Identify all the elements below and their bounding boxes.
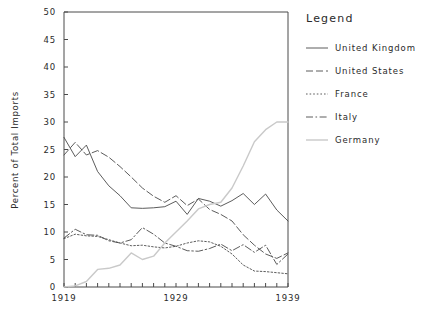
series-line-france [64,234,288,274]
y-axis-title: Percent of Total Imports [10,91,20,209]
series-line-united-states [64,142,288,258]
y-axis-tick-marks [64,12,68,287]
y-tick-label: 30 [43,117,56,127]
y-tick-label: 15 [43,200,56,210]
legend: United KingdomUnited StatesFranceItalyGe… [306,43,416,145]
data-series-group [64,122,288,287]
y-tick-label: 5 [50,255,56,265]
y-tick-label: 40 [43,62,56,72]
x-tick-label: 1939 [275,293,300,303]
series-line-italy [64,228,288,265]
y-tick-label: 25 [43,145,56,155]
series-line-united-kingdom [64,137,288,221]
chart-container: 05101520253035404550 191919291939 Percen… [0,0,423,318]
y-tick-label: 45 [43,35,56,45]
y-tick-label: 35 [43,90,56,100]
legend-label-france: France [335,89,369,99]
legend-title: Legend [306,12,354,25]
x-axis-tick-marks [64,283,288,287]
x-axis-tick-labels: 191919291939 [51,293,300,303]
x-tick-label: 1919 [51,293,76,303]
y-tick-label: 0 [50,282,56,292]
y-axis-tick-labels: 05101520253035404550 [43,7,56,292]
y-tick-label: 50 [43,7,56,17]
legend-label-germany: Germany [335,135,380,145]
y-tick-label: 10 [43,227,56,237]
y-tick-label: 20 [43,172,56,182]
legend-label-united-kingdom: United Kingdom [335,43,416,53]
legend-label-united-states: United States [335,66,404,76]
legend-label-italy: Italy [335,112,358,122]
x-tick-label: 1929 [163,293,188,303]
line-chart-figure: 05101520253035404550 191919291939 Percen… [0,0,423,318]
